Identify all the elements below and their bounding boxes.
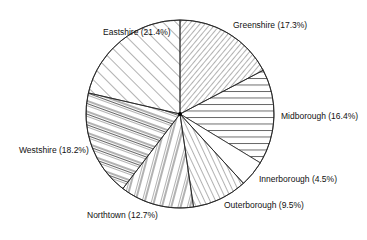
slice-label-outerborough: Outerborough (9.5%) — [224, 201, 304, 210]
slice-label-midborough: Midborough (16.4%) — [281, 112, 358, 121]
slice-label-innerborough: Innerborough (4.5%) — [259, 175, 337, 184]
slice-label-greenshire: Greenshire (17.3%) — [233, 21, 307, 30]
slice-label-westshire: Westshire (18.2%) — [19, 146, 89, 155]
slice-label-eastshire: Eastshire (21.4%) — [103, 28, 171, 37]
slice-label-northtown: Northtown (12.7%) — [87, 211, 158, 220]
pie-center-dot — [178, 112, 182, 116]
